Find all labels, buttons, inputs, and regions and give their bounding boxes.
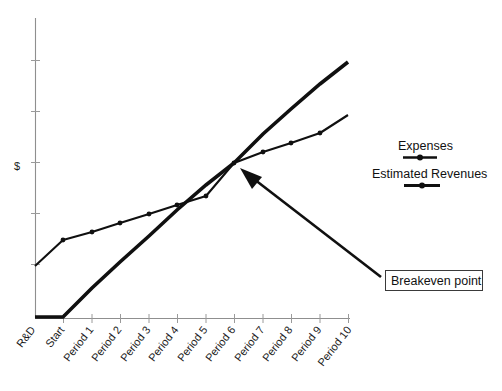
chart-canvas: $ R&D Start Period 1 Period 2 Period 3 P…	[0, 0, 502, 391]
legend-label-estimated-revenues: Estimated Revenues	[372, 167, 487, 181]
breakeven-chart: $ R&D Start Period 1 Period 2 Period 3 P…	[0, 0, 502, 391]
y-axis-title: $	[14, 160, 20, 172]
breakeven-label-text: Breakeven point	[391, 274, 482, 288]
legend-label-expenses: Expenses	[398, 139, 453, 153]
